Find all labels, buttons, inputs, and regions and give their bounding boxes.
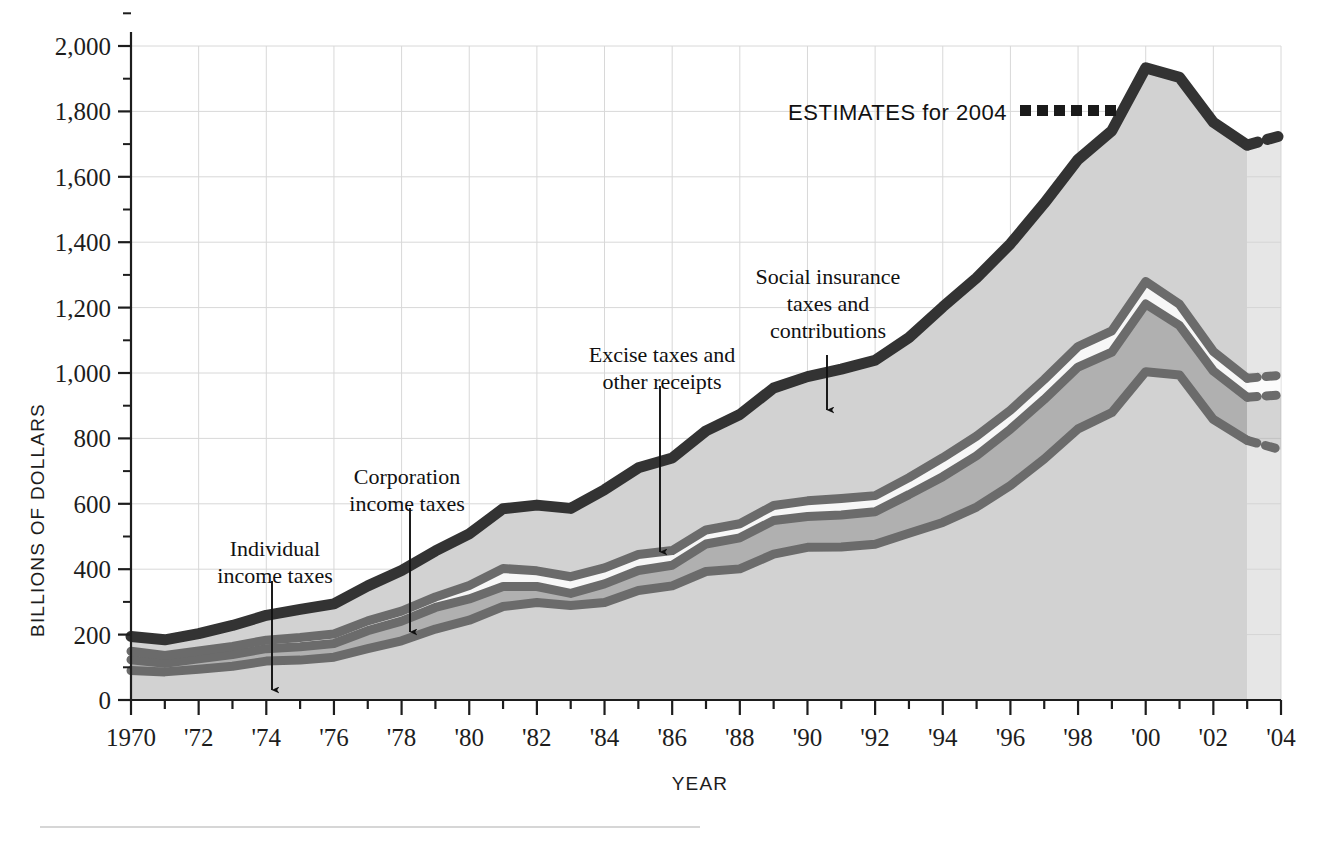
annotation-line: Individual	[230, 536, 320, 561]
x-tick-label: '90	[793, 724, 823, 751]
area-band-est-3	[1247, 136, 1281, 379]
x-tick-label: '82	[522, 724, 552, 751]
area-band-est-0	[1247, 440, 1281, 700]
dashed-line-swatch-icon	[1020, 105, 1116, 116]
legend-dash	[1054, 105, 1065, 116]
x-tick-label: '88	[725, 724, 755, 751]
legend-estimates-label: ESTIMATES for 2004	[788, 100, 1007, 125]
annotation-line: taxes and	[787, 291, 869, 316]
legend-dash	[1105, 105, 1116, 116]
band-outline-est-2	[1247, 375, 1281, 378]
y-tick-label: 1,200	[55, 295, 111, 322]
legend-dash	[1088, 105, 1099, 116]
y-axis-title: BILLIONS OF DOLLARS	[27, 403, 48, 637]
annotation-line: contributions	[770, 318, 886, 343]
band-outline-est-1	[1247, 395, 1281, 397]
y-tick-label: 1,000	[55, 360, 111, 387]
x-tick-label: '76	[319, 724, 349, 751]
annotation-line: income taxes	[217, 563, 332, 588]
y-tick-label: 0	[99, 687, 112, 714]
x-tick-label: '92	[860, 724, 890, 751]
y-tick-label: 600	[74, 491, 112, 518]
legend-dash	[1037, 105, 1048, 116]
annotation-line: Excise taxes and	[589, 342, 736, 367]
federal-receipts-area-chart: 02004006008001,0001,2001,4001,6001,8002,…	[0, 0, 1329, 843]
chart-figure: 02004006008001,0001,2001,4001,6001,8002,…	[0, 0, 1329, 843]
x-tick-label: '02	[1199, 724, 1229, 751]
x-axis-title: YEAR	[672, 773, 729, 794]
y-tick-label: 2,000	[55, 33, 111, 60]
x-tick-label: '94	[928, 724, 958, 751]
y-tick-label: 800	[74, 425, 112, 452]
legend-dash	[1020, 105, 1031, 116]
x-tick-label: 1970	[106, 724, 156, 751]
y-tick-label: 1,400	[55, 229, 111, 256]
y-tick-label: 1,600	[55, 164, 111, 191]
x-tick-label: '00	[1131, 724, 1161, 751]
x-axis-ticks: 1970'72'74'76'78'80'82'84'86'88'90'92'94…	[106, 700, 1296, 751]
annotation-line: Social insurance	[756, 264, 901, 289]
x-tick-label: '78	[387, 724, 417, 751]
y-tick-label: 400	[74, 556, 112, 583]
y-tick-label: 200	[74, 622, 112, 649]
annotation-line: income taxes	[349, 491, 464, 516]
x-tick-label: '04	[1266, 724, 1296, 751]
y-axis-ticks: 02004006008001,0001,2001,4001,6001,8002,…	[55, 13, 131, 714]
x-tick-label: '86	[657, 724, 687, 751]
x-tick-label: '84	[590, 724, 620, 751]
annotation-line: other receipts	[602, 369, 721, 394]
x-tick-label: '98	[1063, 724, 1093, 751]
y-tick-label: 1,800	[55, 98, 111, 125]
annotation-line: Corporation	[354, 464, 460, 489]
x-tick-label: '74	[252, 724, 282, 751]
x-tick-label: '96	[996, 724, 1026, 751]
legend-dash	[1071, 105, 1082, 116]
legend-estimates: ESTIMATES for 2004	[788, 100, 1116, 125]
x-tick-label: '80	[454, 724, 484, 751]
x-tick-label: '72	[184, 724, 214, 751]
